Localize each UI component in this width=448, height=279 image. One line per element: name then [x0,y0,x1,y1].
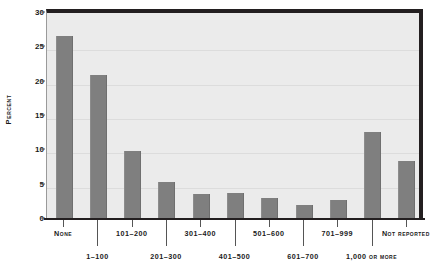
bar [364,132,381,219]
bar [158,182,175,219]
x-axis-tick-label: 701–999 [322,229,353,238]
x-axis-tick-mark [63,220,64,227]
x-axis-tick-label: 101–200 [116,229,147,238]
bar [398,161,415,219]
y-axis-tick-mark [40,80,45,81]
y-axis-tick-mark [40,12,45,13]
bar [227,193,244,219]
x-axis-tick-label: 201–300 [150,252,181,261]
x-axis-tick-label: 601–700 [287,252,318,261]
x-axis-tick-mark [200,220,201,227]
bar-series [47,13,419,219]
y-axis-tick-mark [40,183,45,184]
x-axis-tick-mark [166,220,167,246]
x-axis-tick-mark [372,220,373,246]
x-axis-tick-label: 1,000 or more [346,252,397,261]
y-axis-tick-mark [40,46,45,47]
x-axis-tick-label: 1–100 [86,252,109,261]
bar [193,194,210,219]
bar [56,36,73,219]
bar [124,151,141,219]
y-axis-tick-mark [40,149,45,150]
x-axis-tick-mark [337,220,338,227]
y-axis-tick-mark [40,115,45,116]
y-axis-ticks: 051015202530 [0,0,44,279]
bar-chart: Percent 051015202530 None1–100101–200201… [0,0,448,279]
x-axis-tick-label: 501–600 [253,229,284,238]
bar [296,205,313,219]
bar [330,200,347,219]
plot-area [46,9,423,219]
x-axis-tick-label: 401–500 [219,252,250,261]
x-axis-tick-mark [235,220,236,246]
x-axis-tick-mark [303,220,304,246]
x-axis-tick-label: None [54,229,72,238]
x-axis-tick-mark [406,220,407,227]
x-axis-tick-mark [132,220,133,227]
bar [90,75,107,219]
x-axis-tick-mark [97,220,98,246]
bar [261,198,278,219]
x-axis-tick-mark [269,220,270,227]
x-axis-tick-label: 301–400 [184,229,215,238]
x-axis-tick-label: Not reported [382,229,430,238]
